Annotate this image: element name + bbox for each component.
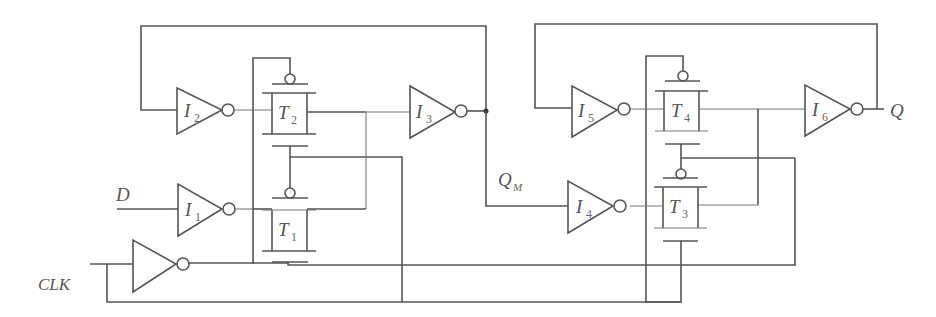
inverter-i3: I 3 (410, 86, 467, 138)
inverter-i6: I 6 (805, 85, 863, 136)
svg-text:1: 1 (195, 210, 201, 224)
t4-ngate-wire (681, 144, 795, 158)
clk-bus (107, 264, 680, 302)
svg-text:3: 3 (682, 207, 688, 221)
svg-text:T: T (671, 100, 683, 121)
qm-wire (486, 111, 568, 206)
svg-text:D: D (115, 184, 130, 205)
svg-text:T: T (278, 102, 290, 123)
svg-text:6: 6 (822, 110, 828, 124)
transmission-gate-t4: T 4 (655, 71, 708, 144)
clk-inverter (133, 240, 189, 292)
svg-text:T: T (278, 219, 290, 240)
inverter-i1: I 1 (178, 184, 235, 236)
transmission-gate-t1: T 1 (262, 146, 316, 264)
inverter-i5: I 5 (572, 86, 630, 137)
inverter-i4: I 4 (568, 181, 626, 233)
svg-text:M: M (512, 181, 523, 193)
svg-text:CLK: CLK (38, 275, 72, 294)
svg-text:T: T (669, 196, 681, 217)
svg-text:Q: Q (498, 169, 512, 190)
svg-text:5: 5 (588, 111, 594, 125)
transmission-gate-t3: T 3 (654, 158, 707, 241)
svg-text:Q: Q (890, 100, 904, 121)
svg-text:2: 2 (291, 113, 297, 127)
flip-flop-schematic: I 2 T 2 I 3 Q M D I 1 (0, 0, 936, 317)
clkbar-bus (189, 158, 795, 265)
inverter-i2: I 2 (177, 88, 234, 134)
svg-text:1: 1 (291, 230, 297, 244)
svg-text:3: 3 (426, 112, 432, 126)
svg-text:4: 4 (684, 111, 690, 125)
svg-text:4: 4 (586, 207, 592, 221)
svg-text:2: 2 (194, 111, 200, 125)
